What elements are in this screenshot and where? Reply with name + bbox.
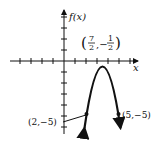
- svg-text:): ): [115, 34, 121, 52]
- svg-text:1: 1: [108, 34, 113, 43]
- x-axis-label: x: [133, 62, 139, 73]
- vertex-label: ( 7 2 ,− 1 2 ): [81, 34, 121, 52]
- y-axis-label: f(x): [68, 11, 86, 22]
- parabola-graph: f(x) x ( 7 2 ,− 1 2 ) (2,−5) (5,−5): [0, 0, 160, 144]
- svg-text:2: 2: [108, 43, 113, 52]
- svg-text:,−: ,−: [96, 39, 108, 50]
- point-left-label: (2,−5): [28, 117, 57, 127]
- point-right-label: (5,−5): [122, 110, 151, 120]
- point-5-neg5: [117, 112, 121, 116]
- svg-text:2: 2: [89, 43, 94, 52]
- parabola-curve: [85, 67, 121, 129]
- svg-text:(: (: [81, 34, 87, 52]
- svg-text:7: 7: [89, 34, 94, 43]
